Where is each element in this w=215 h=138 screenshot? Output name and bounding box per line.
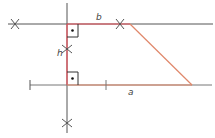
right-angle-marker-bottom <box>67 72 78 85</box>
trapezoid-diagram: b h a <box>0 0 215 138</box>
label-h: h <box>57 48 63 58</box>
label-a: a <box>128 87 134 97</box>
slanted-side <box>130 24 192 85</box>
label-b: b <box>96 12 102 22</box>
right-angle-marker-top <box>67 24 78 37</box>
